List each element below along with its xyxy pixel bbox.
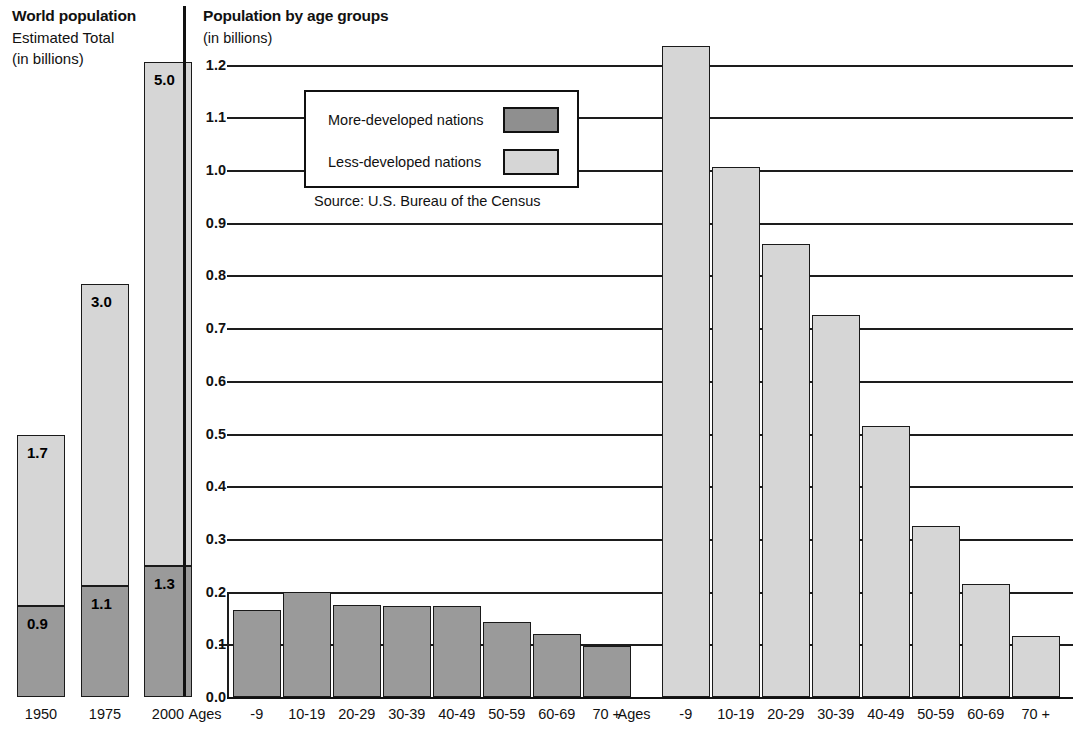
bar-less-developed xyxy=(762,244,810,697)
y-axis-tick-label: 0.5 xyxy=(192,426,226,442)
y-axis-tick-label: 0.6 xyxy=(192,373,226,389)
legend-row-less-developed: Less-developed nations xyxy=(306,142,577,182)
y-axis-tick-label: 0.8 xyxy=(192,267,226,283)
bar-more-developed xyxy=(583,646,631,697)
legend-label-less-developed: Less-developed nations xyxy=(328,154,481,170)
age-groups-panel: Population by age groups (in billions) 0… xyxy=(186,0,1073,749)
y-axis-tick-label: 1.0 xyxy=(192,162,226,178)
world-population-bar: 1.70.9 xyxy=(17,435,65,697)
y-axis-tick-label: 0.2 xyxy=(192,584,226,600)
bar-more-developed xyxy=(533,634,581,697)
left-panel-plot: 1.70.93.01.15.01.3 xyxy=(0,0,186,700)
source-note: Source: U.S. Bureau of the Census xyxy=(311,193,544,209)
legend-row-more-developed: More-developed nations xyxy=(306,100,577,140)
world-population-bar: 3.01.1 xyxy=(81,284,129,697)
left-panel-x-label: 1975 xyxy=(75,706,135,722)
y-axis-tick-label: 0.7 xyxy=(192,320,226,336)
y-axis-tick-label: 1.1 xyxy=(192,109,226,125)
bar-less-developed xyxy=(862,426,910,697)
bar-less-developed xyxy=(712,167,760,697)
gridline xyxy=(227,223,1073,225)
gridline xyxy=(227,275,1073,277)
bar-value-label-more-developed: 0.9 xyxy=(18,615,64,632)
gridline xyxy=(227,486,1073,488)
left-panel-x-label: 1950 xyxy=(11,706,71,722)
bar-more-developed xyxy=(233,610,281,697)
legend-swatch-less-developed xyxy=(503,149,559,175)
bar-less-developed xyxy=(962,584,1010,697)
gridline xyxy=(227,434,1073,436)
y-axis-tick-label: 0.1 xyxy=(192,636,226,652)
bar-less-developed xyxy=(912,526,960,697)
bar-more-developed xyxy=(483,622,531,697)
bar-value-label-less-developed: 1.7 xyxy=(18,444,64,461)
chart-page: World population Estimated Total (in bil… xyxy=(0,0,1073,749)
bar-less-developed xyxy=(662,46,710,697)
y-axis-tick-label: 0.4 xyxy=(192,478,226,494)
bar-more-developed xyxy=(383,606,431,697)
bar-more-developed xyxy=(333,605,381,697)
bar-segment-more-developed: 1.1 xyxy=(81,586,129,697)
less-developed-x-label: 70 + xyxy=(1006,706,1066,722)
bar-more-developed xyxy=(433,606,481,697)
x-axis-baseline xyxy=(227,697,1073,699)
more-developed-ages-label: Ages xyxy=(177,706,233,722)
bar-less-developed xyxy=(1012,636,1060,697)
bar-more-developed xyxy=(283,592,331,697)
y-axis-line xyxy=(227,592,229,697)
y-axis-tick-label: 1.2 xyxy=(192,57,226,73)
gridline xyxy=(227,65,1073,67)
chart-legend: More-developed nations Less-developed na… xyxy=(304,90,579,188)
legend-label-more-developed: More-developed nations xyxy=(328,112,484,128)
y-axis-tick-label: 0.9 xyxy=(192,215,226,231)
bar-value-label-more-developed: 1.1 xyxy=(82,595,128,612)
gridline xyxy=(227,381,1073,383)
gridline xyxy=(227,328,1073,330)
y-axis-tick-label: 0.3 xyxy=(192,531,226,547)
y-axis-tick-label: 0.0 xyxy=(192,689,226,705)
bar-segment-less-developed: 1.7 xyxy=(17,435,65,606)
bar-value-label-less-developed: 3.0 xyxy=(82,293,128,310)
bar-less-developed xyxy=(812,315,860,697)
legend-swatch-more-developed xyxy=(503,107,559,133)
world-population-panel: World population Estimated Total (in bil… xyxy=(0,0,186,749)
less-developed-ages-label: Ages xyxy=(606,706,662,722)
bar-segment-less-developed: 3.0 xyxy=(81,284,129,586)
bar-segment-more-developed: 0.9 xyxy=(17,606,65,697)
